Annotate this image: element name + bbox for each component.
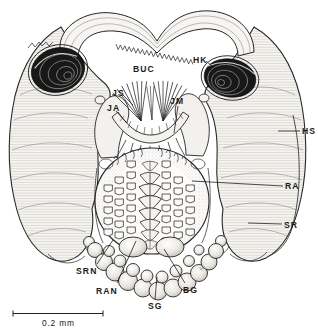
label-srn: SRN bbox=[76, 266, 97, 276]
jaw-knob-right bbox=[199, 94, 209, 102]
label-buc: BUC bbox=[133, 64, 155, 74]
jaw-knob-left bbox=[95, 96, 105, 104]
scale-bar-label: 0.2 mm bbox=[42, 318, 75, 328]
label-ja: JA bbox=[107, 103, 120, 113]
label-js: JS bbox=[112, 88, 125, 98]
buccal-arch bbox=[60, 11, 254, 65]
anatomical-figure: BUC HK JS JA JM HS RA SR SRN RAN SG BG 6… bbox=[0, 0, 318, 336]
radular-sac bbox=[95, 148, 209, 254]
buccal-arch-band bbox=[60, 11, 254, 56]
label-jm: JM bbox=[170, 96, 184, 106]
label-bg: BG bbox=[183, 285, 198, 295]
label-ran: RAN bbox=[96, 286, 118, 296]
label-sg: SG bbox=[148, 301, 163, 311]
label-hs: HS bbox=[302, 126, 316, 136]
label-ra: RA bbox=[285, 181, 300, 191]
label-hk: HK bbox=[193, 55, 208, 65]
label-sr: SR bbox=[284, 220, 298, 230]
scale-bar: 0.2 mm bbox=[13, 311, 103, 329]
figure-page: BUC HK JS JA JM HS RA SR SRN RAN SG BG 6… bbox=[0, 0, 318, 336]
